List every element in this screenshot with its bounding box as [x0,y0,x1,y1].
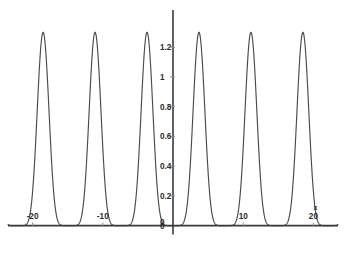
y-tick-label: 0.6 [160,132,172,141]
origin-tick-label: 0 [160,218,165,227]
chart-canvas: 00.20.40.60.811.2 -20-101020 0 x [0,0,346,253]
x-axis-title: x [313,204,317,211]
y-tick-label: 1.2 [160,43,172,52]
x-tick-label: -10 [97,212,109,221]
x-tick-label: 10 [239,212,249,221]
y-axis-tick-labels: 00.20.40.60.811.2 [160,43,172,230]
y-tick-label: 0.4 [160,162,172,171]
chart-figure: 00.20.40.60.811.2 -20-101020 0 x [0,0,346,253]
x-tick-label: 20 [309,212,319,221]
x-tick-label: -20 [27,212,39,221]
y-tick-label: 0.8 [160,103,172,112]
y-tick-label: 0.2 [160,192,172,201]
y-tick-label: 1 [160,73,165,82]
axes-layer [8,10,338,235]
